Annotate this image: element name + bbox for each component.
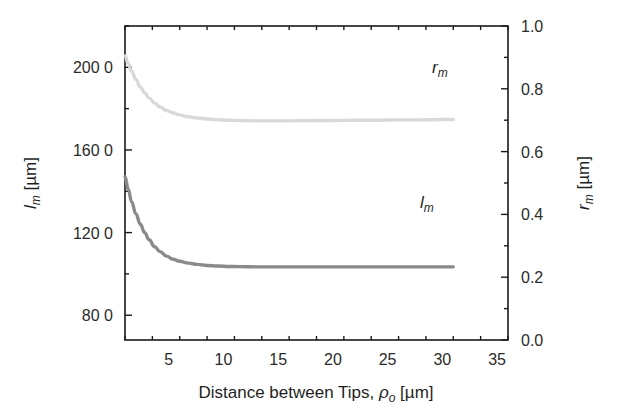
line-chart-svg: 5101520253035 80 0120 0160 0200 0 0.00.2… xyxy=(0,0,621,419)
x-tick-label: 15 xyxy=(269,351,287,368)
y-right-tick-label: 0.6 xyxy=(521,144,543,161)
x-tick-label: 30 xyxy=(433,351,451,368)
y-left-tick-label: 200 0 xyxy=(73,59,113,76)
chart-figure: 5101520253035 80 0120 0160 0200 0 0.00.2… xyxy=(0,0,621,419)
y-left-tick-label: 120 0 xyxy=(73,225,113,242)
y-left-tick-label: 80 0 xyxy=(82,307,113,324)
y-right-tick-label: 0.2 xyxy=(521,269,543,286)
y-right-tick-label: 0.0 xyxy=(521,332,543,349)
x-tick-label: 10 xyxy=(215,351,233,368)
y-right-tick-label: 1.0 xyxy=(521,18,543,35)
x-tick-label: 5 xyxy=(164,351,173,368)
x-tick-label: 25 xyxy=(379,351,397,368)
y-right-tick-label: 0.4 xyxy=(521,206,543,223)
y-left-tick-label: 160 0 xyxy=(73,142,113,159)
x-axis-title: Distance between Tips, ρo [µm] xyxy=(198,383,433,405)
y-right-tick-label: 0.8 xyxy=(521,81,543,98)
x-tick-label: 20 xyxy=(324,351,342,368)
x-tick-label: 35 xyxy=(488,351,506,368)
